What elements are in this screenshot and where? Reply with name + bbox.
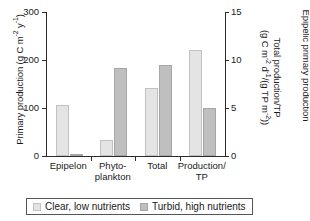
y-axis-right-tick-label: 10 — [231, 55, 242, 65]
bars-layer — [47, 12, 224, 156]
y-axis-left-tick-label: 100 — [0, 103, 39, 113]
y-axis-left-tick-label: 0 — [0, 151, 39, 161]
bar-2-0 — [145, 88, 158, 156]
bar-1-1 — [114, 68, 127, 156]
legend-label-1: Turbid, high nutrients — [152, 202, 246, 212]
y-axis-right-title-line2d: )) — [260, 119, 271, 125]
y-axis-left-title-sup1: -2 — [12, 30, 19, 36]
legend-item-0: Clear, low nutrients — [33, 202, 130, 212]
y-axis-left-tick-mark — [42, 108, 46, 109]
y-axis-left-tick-mark — [42, 12, 46, 13]
bar-0-0 — [56, 105, 69, 156]
legend-item-1: Turbid, high nutrients — [140, 202, 246, 212]
legend: Clear, low nutrientsTurbid, high nutrien… — [26, 198, 253, 215]
y-axis-right-tick-mark — [225, 60, 229, 61]
y-axis-left-title-sup2: -1 — [12, 17, 19, 23]
y-axis-left-title-main: Primary production (g C m — [14, 36, 25, 144]
x-axis-category-label-3: Production/ TP — [170, 160, 235, 182]
legend-swatch-1 — [140, 203, 148, 211]
y-axis-right-tick-mark — [225, 12, 229, 13]
y-axis-right-title: Total production/TP (g C m-2 d-1/(g TP m… — [260, 3, 283, 153]
bar-0-1 — [70, 154, 83, 156]
y-axis-left-tick-mark — [42, 60, 46, 61]
y-axis-left-title-mid: y — [14, 23, 25, 30]
y-axis-right-title-line2a: (g C m — [260, 30, 271, 58]
y-axis-right-tick-label: 5 — [231, 103, 236, 113]
bar-1-0 — [100, 140, 113, 156]
y-axis-right-tick-mark — [225, 108, 229, 109]
y-axis-left-tick-mark — [42, 156, 46, 157]
bar-3-0 — [189, 50, 202, 156]
y-axis-left-title: Primary production (g C m-2 y-1) — [14, 5, 25, 155]
y-axis-left-tick-label: 300 — [0, 7, 39, 17]
y-axis-right-title-line2b: d — [260, 64, 271, 72]
y-axis-right-tick-label: 15 — [231, 7, 242, 17]
legend-swatch-0 — [33, 203, 41, 211]
y-axis-far-right-title: Epipelic primary production — [301, 0, 310, 146]
bar-3-1 — [203, 108, 216, 156]
y-axis-right-title-line1: Total production/TP — [272, 38, 283, 118]
y-axis-right-title-line2c: /(g TP m — [260, 78, 271, 113]
bar-2-1 — [159, 65, 172, 156]
y-axis-right-tick-mark — [225, 156, 229, 157]
y-axis-left-tick-label: 200 — [0, 55, 39, 65]
legend-label-0: Clear, low nutrients — [45, 202, 130, 212]
